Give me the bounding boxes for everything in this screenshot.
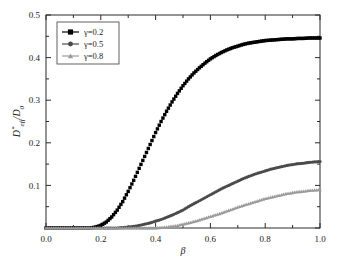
y-title-superscript: * <box>10 126 18 130</box>
x-tick-label: 1.0 <box>314 234 326 244</box>
x-tick-label: 0.8 <box>260 234 272 244</box>
data-point <box>161 116 164 119</box>
data-point <box>148 143 151 146</box>
y-tick-label: 0.2 <box>29 138 40 148</box>
data-point <box>130 182 133 185</box>
data-point <box>156 127 159 130</box>
x-tick-label: 0.0 <box>40 234 52 244</box>
data-point <box>318 160 321 163</box>
data-point <box>158 123 161 126</box>
data-point <box>147 147 150 150</box>
data-point <box>137 167 140 170</box>
y-axis-tick-labels: 0.10.20.30.40.5 <box>29 10 41 190</box>
legend-marker-circle-icon <box>68 42 73 47</box>
data-point <box>127 190 130 193</box>
y-tick-label: 0.5 <box>29 10 41 20</box>
data-point <box>318 36 321 39</box>
data-point <box>143 155 146 158</box>
x-tick-label: 0.2 <box>95 234 106 244</box>
figure-container: 0.00.20.40.60.81.0 0.10.20.30.40.5 γ=0.2… <box>0 0 338 275</box>
x-tick-label: 0.6 <box>205 234 217 244</box>
data-point <box>154 131 157 134</box>
chart-legend: γ=0.2γ=0.5γ=0.8 <box>57 22 119 64</box>
data-point <box>128 186 131 189</box>
legend-label: γ=0.8 <box>83 51 103 61</box>
data-point <box>123 196 126 199</box>
data-point <box>134 175 137 178</box>
chart-canvas: 0.00.20.40.60.81.0 0.10.20.30.40.5 γ=0.2… <box>0 0 338 275</box>
x-axis-tick-labels: 0.00.20.40.60.81.0 <box>40 234 326 244</box>
y-tick-label: 0.1 <box>29 181 40 191</box>
data-point <box>139 163 142 166</box>
data-point <box>159 120 162 123</box>
data-series-layer <box>44 36 322 229</box>
data-point <box>145 151 148 154</box>
data-point <box>169 103 172 106</box>
y-title-denominator-subscript: 0 <box>18 105 26 109</box>
legend-label: γ=0.2 <box>83 27 103 37</box>
legend-label: γ=0.5 <box>83 39 103 49</box>
data-point <box>150 139 153 142</box>
data-point <box>136 171 139 174</box>
y-tick-label: 0.4 <box>29 53 41 63</box>
y-tick-label: 0.3 <box>29 95 41 105</box>
data-point <box>121 200 124 203</box>
y-axis-title: D*eff/D0 <box>10 105 26 138</box>
data-point <box>125 193 128 196</box>
series-1 <box>44 36 321 229</box>
x-tick-label: 0.4 <box>150 234 162 244</box>
data-point <box>163 113 166 116</box>
x-axis-title: β <box>180 245 186 256</box>
data-point <box>141 159 144 162</box>
data-point <box>165 110 168 113</box>
data-point <box>132 179 135 182</box>
legend-marker-square-icon <box>68 29 73 34</box>
data-point <box>152 135 155 138</box>
data-point <box>167 106 170 109</box>
